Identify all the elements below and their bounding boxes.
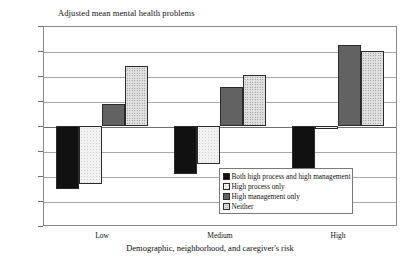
- legend-label: High management only: [232, 192, 301, 201]
- legend-swatch-icon: [223, 193, 230, 200]
- bar: [292, 126, 315, 169]
- x-axis-title: Demographic, neighborhood, and caregiver…: [0, 243, 420, 253]
- x-tick-label: High: [331, 231, 346, 240]
- y-tick-mark: [38, 226, 43, 227]
- chart-title: Adjusted mean mental health problems: [58, 8, 195, 18]
- bar: [197, 126, 220, 164]
- legend-item: Neither: [223, 201, 350, 211]
- legend-item: Both high process and high management: [223, 171, 350, 181]
- legend-item: High management only: [223, 191, 350, 201]
- bar: [338, 45, 361, 126]
- legend-label: High process only: [232, 182, 285, 191]
- legend-swatch-icon: [223, 183, 230, 190]
- bar: [56, 126, 79, 189]
- legend-label: Both high process and high management: [232, 172, 351, 181]
- legend-item: High process only: [223, 181, 350, 191]
- y-axis: 0.80.60.40.20-0.2-0.4-0.6-0.8: [0, 0, 40, 257]
- legend-label: Neither: [232, 202, 254, 211]
- bar: [361, 51, 384, 126]
- bar-chart: Adjusted mean mental health problems 0.8…: [0, 0, 420, 257]
- bar: [79, 126, 102, 184]
- bar: [315, 126, 338, 129]
- legend-swatch-icon: [223, 203, 230, 210]
- bar: [174, 126, 197, 174]
- legend-swatch-icon: [223, 173, 230, 180]
- chart-legend: Both high process and high managementHig…: [219, 168, 353, 214]
- x-tick-label: Medium: [207, 231, 232, 240]
- x-tick-label: Low: [95, 231, 109, 240]
- bar: [243, 75, 266, 126]
- bar: [125, 66, 148, 126]
- bar: [220, 87, 243, 126]
- bar: [102, 104, 125, 127]
